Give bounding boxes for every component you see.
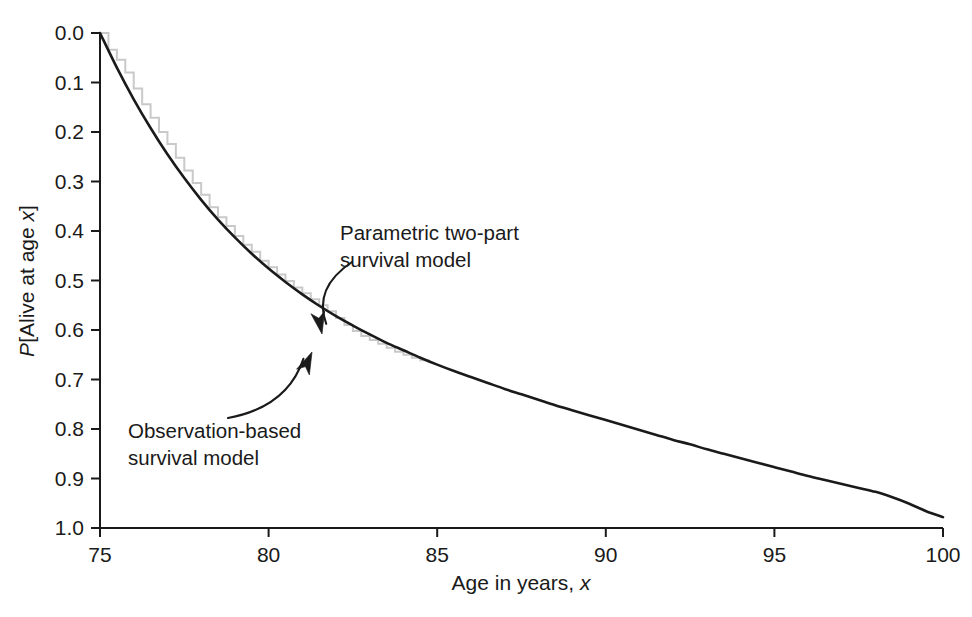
annotation-text-line2: survival model (128, 446, 259, 469)
y-tick-label: 0.8 (55, 417, 84, 440)
x-axis-title: Age in years, x (452, 571, 592, 594)
x-tick-label: 100 (925, 543, 960, 566)
y-axis-title: P[Alive at age x] (15, 205, 38, 357)
observation-model-annotation: Observation-basedsurvival model (128, 349, 318, 469)
y-tick-label: 1.0 (55, 516, 84, 539)
y-tick-label: 0.0 (55, 21, 84, 44)
y-tick-label: 0.2 (55, 120, 84, 143)
annotation-connector-line (323, 262, 352, 324)
x-axis-ticks (100, 528, 943, 537)
annotation-arrowhead (297, 349, 319, 375)
x-axis-tick-labels: 7580859095100 (88, 543, 960, 566)
annotation-text-line1: Parametric two-part (340, 221, 519, 244)
y-axis-tick-labels: 1.00.90.80.70.60.50.40.30.20.10.0 (55, 21, 85, 539)
annotation-text-line1: Observation-based (128, 419, 301, 442)
x-tick-label: 90 (594, 543, 617, 566)
y-tick-label: 0.1 (55, 71, 84, 94)
survival-curve-figure: 1.00.90.80.70.60.50.40.30.20.10.0 758085… (0, 0, 972, 617)
y-tick-label: 0.9 (55, 467, 84, 490)
y-tick-label: 0.3 (55, 170, 84, 193)
x-tick-label: 75 (88, 543, 111, 566)
x-tick-label: 85 (426, 543, 449, 566)
x-tick-label: 80 (257, 543, 280, 566)
x-tick-label: 95 (763, 543, 786, 566)
parametric-two-part-survival-curve (100, 33, 943, 517)
y-tick-label: 0.6 (55, 318, 84, 341)
y-tick-label: 0.7 (55, 368, 84, 391)
chart-canvas: 1.00.90.80.70.60.50.40.30.20.10.0 758085… (0, 0, 972, 617)
y-tick-label: 0.4 (55, 219, 85, 242)
y-axis-ticks (91, 33, 100, 528)
observation-based-survival-curve (100, 33, 429, 363)
y-tick-label: 0.5 (55, 269, 84, 292)
annotation-layer: Parametric two-partsurvival modelObserva… (128, 221, 519, 469)
annotation-text-line2: survival model (340, 248, 471, 271)
annotation-connector-line (228, 359, 303, 418)
